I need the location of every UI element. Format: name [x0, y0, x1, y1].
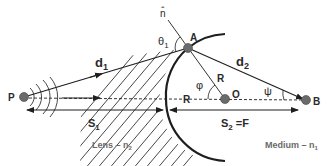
lens-hatch-region — [36, 40, 290, 166]
ray-d2 — [188, 48, 303, 99]
ray-d1-arrow — [90, 74, 102, 78]
label-radius-r: R — [217, 73, 225, 84]
point-b — [302, 96, 311, 105]
wavefront-arcs — [30, 77, 58, 117]
label-b: B — [313, 96, 320, 107]
lens-surface-arc — [166, 34, 225, 161]
point-p — [20, 93, 29, 102]
label-s2: S2 =F — [221, 117, 249, 132]
label-axis-r: R — [183, 94, 191, 105]
label-theta1: θ1 — [158, 35, 169, 50]
lens-geometry-diagram: P A O B n̂ θ1 d1 d2 R R φ ψ S1 S2 =F Len… — [0, 0, 333, 166]
ray-d1 — [24, 48, 188, 97]
point-a — [184, 44, 193, 53]
label-phi: φ — [196, 79, 203, 91]
label-d2: d2 — [236, 54, 249, 71]
label-normal: n̂ — [160, 6, 166, 19]
point-o — [221, 95, 230, 104]
theta1-angle-arc — [175, 37, 180, 52]
label-p: P — [8, 92, 15, 103]
psi-angle-arc — [283, 90, 284, 100]
label-a: A — [190, 32, 197, 43]
phi-angle-arc — [208, 85, 215, 99]
label-o: O — [232, 89, 240, 100]
label-psi: ψ — [264, 85, 272, 97]
label-outer-medium: Medium – n1 — [265, 140, 319, 151]
label-lens-medium: Lens – n2 — [92, 140, 133, 151]
label-d1: d1 — [95, 55, 108, 72]
